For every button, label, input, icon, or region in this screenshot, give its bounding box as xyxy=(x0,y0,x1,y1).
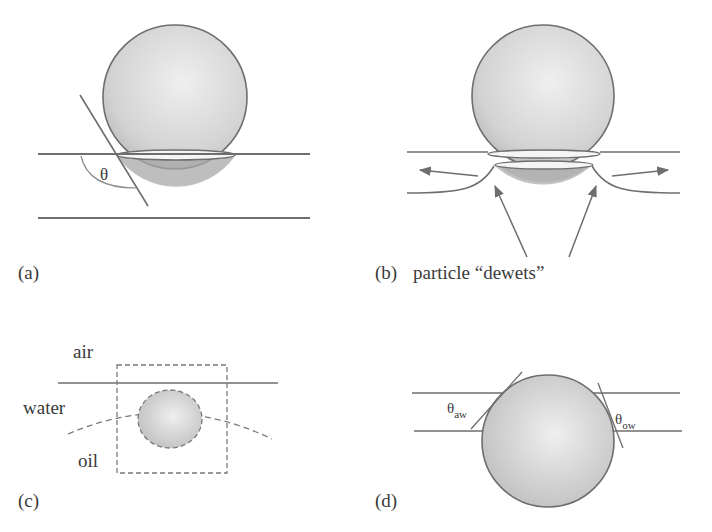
panel-a: θ (a) xyxy=(18,25,310,284)
panel-b: (b) particle “dewets” xyxy=(375,25,680,284)
dewets-annotation: particle “dewets” xyxy=(413,262,544,283)
contact-ellipse xyxy=(117,150,235,160)
contact-ellipse-upper xyxy=(488,150,600,158)
panel-d: θaw θow (d) xyxy=(375,372,682,512)
arrow-left xyxy=(420,170,478,176)
contact-ellipse-lower xyxy=(495,161,593,169)
particle-sphere xyxy=(472,25,614,167)
air-label: air xyxy=(73,341,94,362)
theta-ow-label: θow xyxy=(615,411,636,431)
panel-label-d: (d) xyxy=(375,490,397,512)
pointer-arrow-right xyxy=(569,186,596,257)
theta-aw-symbol: θ xyxy=(447,400,454,416)
arrow-right xyxy=(612,170,668,176)
figure-canvas: θ (a) (b) particle “dewets” air water oi… xyxy=(0,0,712,532)
theta-ow-subscript: ow xyxy=(622,419,636,431)
theta-aw-label: θaw xyxy=(447,400,467,420)
droplet xyxy=(138,390,202,448)
water-label: water xyxy=(23,397,66,418)
pointer-arrow-left xyxy=(495,186,527,257)
oil-label: oil xyxy=(78,450,98,471)
panel-c: air water oil (c) xyxy=(18,341,278,512)
theta-ow-symbol: θ xyxy=(615,411,622,427)
particle-sphere xyxy=(103,25,247,169)
theta-aw-subscript: aw xyxy=(454,408,467,420)
theta-label: θ xyxy=(100,165,108,184)
panel-label-a: (a) xyxy=(18,262,39,284)
panel-label-b: (b) xyxy=(375,262,397,284)
panel-label-c: (c) xyxy=(18,490,39,512)
